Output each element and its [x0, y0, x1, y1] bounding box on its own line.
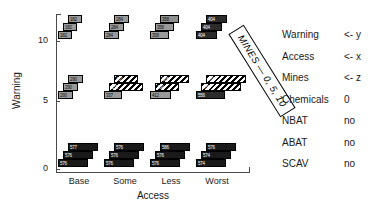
bar-value-label: 290	[70, 76, 77, 83]
legend-row-nbat: NBATno	[282, 110, 383, 132]
bar-value-label: 576	[208, 144, 215, 151]
bar-value-label: 576	[60, 160, 67, 167]
bar: 653	[109, 83, 143, 91]
bar: 767	[206, 75, 246, 83]
bar-value-label: 358	[157, 24, 164, 31]
bar: 404	[201, 23, 222, 31]
bar-value-label: 284	[116, 16, 123, 23]
bar-value-label: 760	[203, 84, 210, 91]
bar: 358	[155, 23, 174, 31]
bar: 565	[160, 75, 189, 83]
legend-row-mines: Mines<- z	[282, 67, 383, 89]
bar-value-label: 404	[203, 24, 210, 31]
bar: 576	[150, 159, 180, 167]
bar: 576	[114, 143, 144, 151]
legend-value: no	[344, 132, 355, 154]
bar-value-label: 576	[111, 152, 118, 159]
y-tick-label: 0	[0, 164, 48, 173]
bar-value-label: 461	[116, 76, 123, 83]
bar-group: 576574574	[194, 143, 256, 173]
legend-value: <- x	[344, 46, 361, 68]
legend-row-scav: SCAVno	[282, 153, 383, 175]
bar-value-label: 284	[111, 24, 118, 31]
legend-key: Mines	[282, 67, 309, 89]
bar: 284	[109, 23, 124, 31]
bar-value-label: 358	[152, 32, 159, 39]
bar-value-label: 464	[157, 84, 164, 91]
legend-key: Access	[282, 46, 314, 68]
bar: 464	[155, 83, 179, 91]
legend-value: no	[344, 153, 355, 175]
bar: 556	[196, 91, 225, 99]
bar-value-label: 576	[65, 152, 72, 159]
bar-value-label: 653	[111, 84, 118, 91]
bar-value-label: 577	[70, 144, 77, 151]
legend-value: 0	[344, 89, 350, 111]
y-tick-label: 10	[0, 36, 48, 45]
legend-value: <- y	[344, 24, 361, 46]
bar: 284	[114, 15, 129, 23]
bar-value-label: 182	[65, 24, 72, 31]
bar: 290	[58, 91, 73, 99]
bar-value-label: 586	[162, 144, 169, 151]
legend-key: NBAT	[282, 110, 308, 132]
bar: 412	[150, 91, 171, 99]
bar-value-label: 290	[65, 84, 72, 91]
legend-row-chemicals: Chemicals0	[282, 89, 383, 111]
bar: 576	[109, 151, 139, 159]
bar: 586	[160, 143, 190, 151]
bar-value-label: 574	[203, 152, 210, 159]
legend-value: <- z	[344, 67, 361, 89]
chart-root: 1050 BaseSomeLessWorst 18218218228428428…	[0, 0, 383, 221]
bar: 404	[196, 31, 217, 39]
bar-value-label: 412	[152, 92, 159, 99]
bar: 574	[201, 151, 231, 159]
bar-value-label: 576	[157, 152, 164, 159]
bar-value-label: 284	[106, 32, 113, 39]
bar-value-label: 182	[60, 32, 67, 39]
legend-row-abat: ABATno	[282, 132, 383, 154]
legend-key: Warning	[282, 24, 319, 46]
bar: 574	[196, 159, 226, 167]
bar: 182	[58, 31, 72, 39]
legend-row-access: Access<- x	[282, 46, 383, 68]
bar-value-label: 358	[162, 16, 169, 23]
y-axis-title: Warning	[11, 51, 22, 131]
legend-row-warning: Warning<- y	[282, 24, 383, 46]
bar: 576	[155, 151, 185, 159]
bar: 284	[104, 31, 119, 39]
legend-panel: Warning<- yAccess<- xMines<- zChemicals0…	[282, 24, 383, 175]
bar-value-label: 565	[162, 76, 169, 83]
bar: 358	[150, 31, 169, 39]
legend-key: ABAT	[282, 132, 307, 154]
bar: 576	[63, 151, 93, 159]
bar-value-label: 767	[208, 76, 215, 83]
legend-key: Chemicals	[282, 89, 329, 111]
x-tick-label-worst: Worst	[188, 176, 246, 186]
bar-value-label: 404	[198, 32, 205, 39]
bar-value-label: 574	[198, 160, 205, 167]
bar-value-label: 337	[106, 92, 113, 99]
bar: 337	[104, 91, 122, 99]
bar: 576	[206, 143, 236, 151]
bar: 576	[104, 159, 134, 167]
y-tick-label: 5	[0, 96, 48, 105]
bar: 577	[68, 143, 98, 151]
bar: 760	[201, 83, 241, 91]
bar-value-label: 556	[198, 92, 205, 99]
legend-key: SCAV	[282, 153, 309, 175]
bar-group: 767760556	[194, 75, 256, 105]
bar: 461	[114, 75, 138, 83]
bar: 182	[68, 15, 82, 23]
x-axis-title: Access	[56, 190, 250, 201]
bar: 358	[160, 15, 179, 23]
bar: 290	[63, 83, 78, 91]
bar-value-label: 576	[106, 160, 113, 167]
bar: 404	[206, 15, 227, 23]
bar-value-label: 404	[208, 16, 215, 23]
bar-value-label: 290	[60, 92, 67, 99]
bar: 290	[68, 75, 83, 83]
legend-value: no	[344, 110, 355, 132]
bar-value-label: 182	[70, 16, 77, 23]
bar-value-label: 576	[152, 160, 159, 167]
